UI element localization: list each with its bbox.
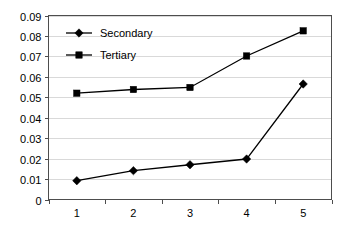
y-tick-label: 0.08 bbox=[20, 31, 41, 43]
legend-label: Tertiary bbox=[100, 49, 137, 61]
x-tick-label: 4 bbox=[244, 207, 250, 219]
legend-item: Secondary bbox=[66, 27, 153, 39]
legend-label: Secondary bbox=[100, 27, 153, 39]
y-tick-label: 0.09 bbox=[20, 11, 41, 23]
x-tick-label: 3 bbox=[187, 207, 193, 219]
y-tick-label: 0.01 bbox=[20, 174, 41, 186]
chart-canvas: 00.010.020.030.040.050.060.070.080.09 12… bbox=[0, 0, 353, 229]
y-tick-label: 0.02 bbox=[20, 154, 41, 166]
data-point bbox=[243, 53, 249, 59]
data-point bbox=[130, 86, 136, 92]
chart-background bbox=[0, 0, 353, 229]
x-tick-label: 1 bbox=[74, 207, 80, 219]
y-tick-label: 0 bbox=[35, 195, 41, 207]
y-tick-label: 0.04 bbox=[20, 113, 41, 125]
data-point bbox=[187, 84, 193, 90]
y-tick-label: 0.07 bbox=[20, 51, 41, 63]
x-tick-label: 2 bbox=[130, 207, 136, 219]
y-tick-label: 0.06 bbox=[20, 72, 41, 84]
x-tick-label: 5 bbox=[300, 207, 306, 219]
y-tick-label: 0.05 bbox=[20, 92, 41, 104]
data-point bbox=[300, 28, 306, 34]
legend-marker-icon bbox=[76, 52, 82, 58]
data-point bbox=[74, 90, 80, 96]
line-chart: 00.010.020.030.040.050.060.070.080.09 12… bbox=[0, 0, 353, 229]
y-tick-label: 0.03 bbox=[20, 133, 41, 145]
